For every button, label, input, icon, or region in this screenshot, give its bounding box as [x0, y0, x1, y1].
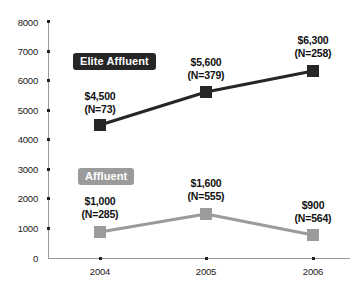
affluent-marker-2004	[94, 226, 106, 238]
data-label-affluent-2006-n: (N=564)	[295, 212, 332, 224]
data-label-elite-2005: $5,600 (N=379)	[166, 56, 246, 81]
elite-affluent-marker-2006	[307, 65, 319, 77]
elite-affluent-marker-2004	[94, 119, 106, 131]
data-label-elite-2005-value: $5,600	[191, 56, 222, 68]
data-label-elite-2004-value: $4,500	[85, 90, 116, 102]
data-label-elite-2004-n: (N=73)	[84, 103, 115, 115]
line-chart: 8000 7000 6000 5000 4000 3000 2000 1000 …	[0, 0, 358, 299]
data-label-elite-2006-n: (N=258)	[295, 47, 332, 59]
data-label-elite-2006-value: $6,300	[298, 34, 329, 46]
data-label-affluent-2004-n: (N=285)	[82, 208, 119, 220]
data-label-elite-2004: $4,500 (N=73)	[60, 90, 140, 115]
affluent-marker-2006	[307, 229, 319, 241]
data-label-affluent-2005-value: $1,600	[191, 177, 222, 189]
legend-badge-affluent: Affluent	[78, 168, 134, 185]
data-label-affluent-2005-n: (N=555)	[188, 190, 225, 202]
data-label-affluent-2004-value: $1,000	[85, 195, 116, 207]
affluent-marker-2005	[200, 208, 212, 220]
data-label-affluent-2006: $900 (N=564)	[273, 199, 353, 224]
data-label-affluent-2004: $1,000 (N=285)	[60, 195, 140, 220]
data-label-affluent-2006-value: $900	[302, 199, 325, 211]
data-label-elite-2006: $6,300 (N=258)	[273, 34, 353, 59]
legend-badge-elite-affluent: Elite Affluent	[73, 53, 156, 70]
elite-affluent-marker-2005	[200, 86, 212, 98]
data-label-elite-2005-n: (N=379)	[188, 69, 225, 81]
data-label-affluent-2005: $1,600 (N=555)	[166, 177, 246, 202]
